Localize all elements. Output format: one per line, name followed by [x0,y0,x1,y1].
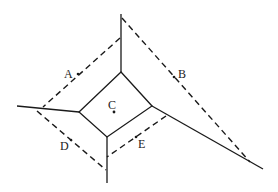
label-c: C [108,98,116,112]
point-a-marker [77,73,80,76]
point-e-marker [135,136,138,139]
point-b-marker [173,76,176,79]
dashed-edge-a [43,38,120,107]
ray-right [152,106,263,169]
label-e: E [138,137,145,151]
ray-left [17,106,79,112]
label-b: B [178,67,186,81]
diagram-canvas: A B C D E [0,0,278,192]
label-d: D [60,139,69,153]
point-d-marker [70,139,73,142]
voronoi-diagram: A B C D E [0,0,278,192]
label-a: A [64,67,73,81]
